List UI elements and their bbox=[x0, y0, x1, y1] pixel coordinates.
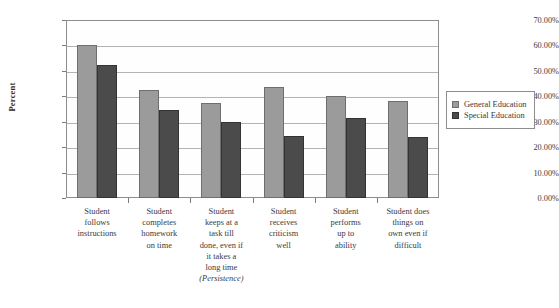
x-axis-category-label: Studentperformsup toability bbox=[315, 206, 377, 251]
bar bbox=[159, 110, 179, 198]
bar bbox=[346, 118, 366, 198]
bar bbox=[139, 90, 159, 198]
y-axis-tick-mark bbox=[62, 198, 66, 199]
legend-label: General Education bbox=[464, 100, 527, 109]
x-axis-tick-mark bbox=[377, 198, 378, 203]
bar bbox=[408, 137, 428, 198]
x-axis-category-label: Student doesthings onown even ifdifficul… bbox=[377, 206, 439, 251]
x-axis-category-label: Studentcompleteshomeworkon time bbox=[128, 206, 190, 251]
x-axis-category-label: Studentkeeps at atask tilldone, even ifi… bbox=[190, 206, 252, 284]
y-axis-tick-label: 20.00% bbox=[505, 143, 559, 152]
bar bbox=[97, 65, 117, 199]
bar bbox=[284, 136, 304, 198]
bar bbox=[388, 101, 408, 198]
bar bbox=[77, 45, 97, 198]
y-axis-tick-label: 10.00% bbox=[505, 168, 559, 177]
y-axis-tick-label: 70.00% bbox=[505, 16, 559, 25]
legend-item: Special Education bbox=[452, 111, 527, 120]
y-axis-tick-label: 60.00% bbox=[505, 41, 559, 50]
legend-swatch-icon bbox=[452, 112, 459, 119]
y-axis-title: Percent bbox=[7, 67, 17, 127]
bar bbox=[264, 87, 284, 198]
bar bbox=[201, 103, 221, 198]
bar bbox=[221, 122, 241, 198]
x-axis-tick-mark bbox=[128, 198, 129, 203]
legend: General EducationSpecial Education bbox=[446, 91, 535, 129]
bar bbox=[326, 96, 346, 198]
bar-chart: Percent 70.00%60.00%50.00%40.00%30.00%20… bbox=[0, 0, 559, 308]
bars-layer bbox=[66, 20, 439, 198]
x-axis-category-label: Studentfollowsinstructions bbox=[66, 206, 128, 240]
x-axis-tick-mark bbox=[253, 198, 254, 203]
legend-label: Special Education bbox=[464, 111, 525, 120]
legend-swatch-icon bbox=[452, 101, 459, 108]
x-axis-tick-mark bbox=[315, 198, 316, 203]
x-axis-tick-mark bbox=[190, 198, 191, 203]
y-axis-tick-label: 0.00% bbox=[505, 194, 559, 203]
x-axis-category-label: Studentreceivescriticismwell bbox=[253, 206, 315, 251]
legend-item: General Education bbox=[452, 100, 527, 109]
y-axis-tick-label: 50.00% bbox=[505, 66, 559, 75]
